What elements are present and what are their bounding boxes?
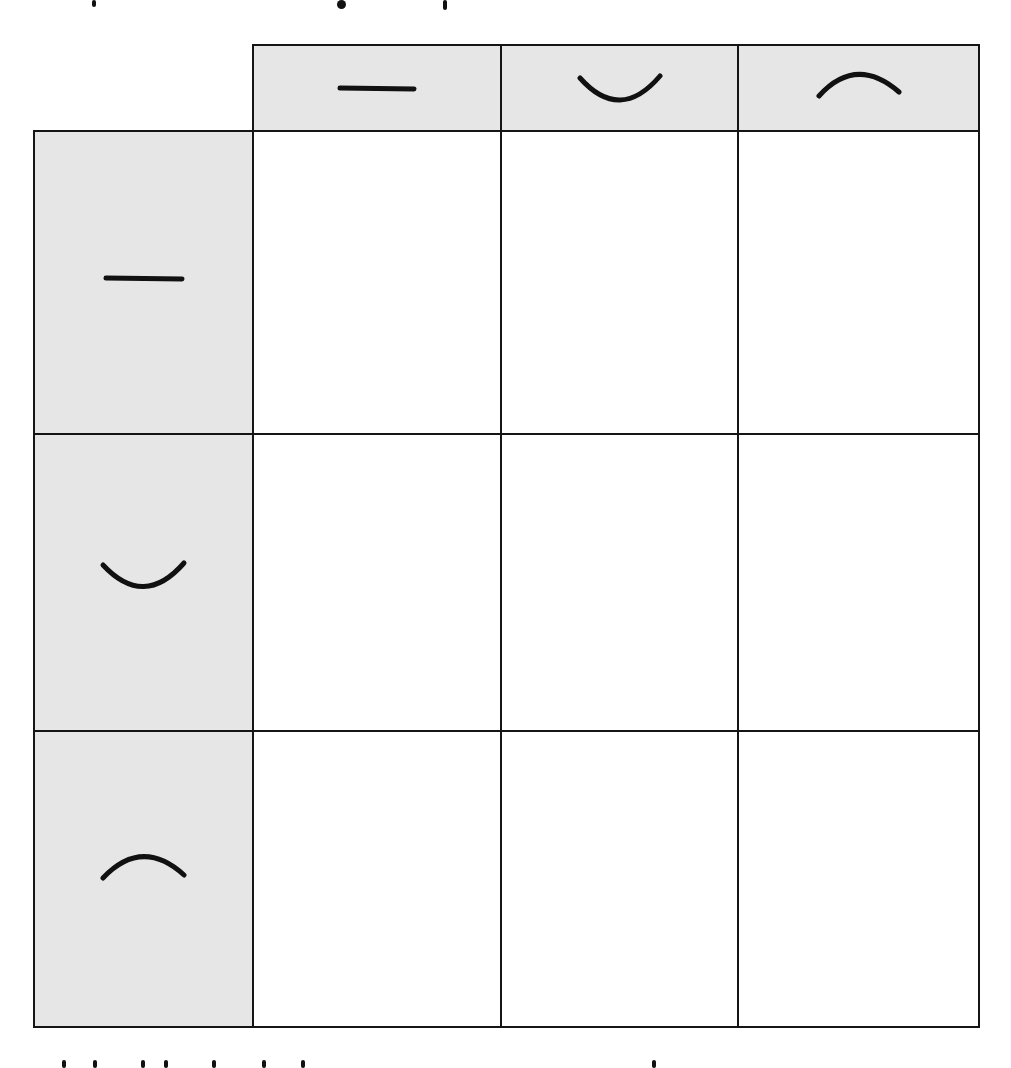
flat-line-icon xyxy=(102,272,186,284)
text-fragment xyxy=(62,1060,66,1068)
text-fragment xyxy=(301,1060,305,1068)
text-fragment xyxy=(93,1060,97,1068)
text-fragment xyxy=(443,0,447,10)
text-fragment xyxy=(652,1060,656,1068)
answer-cell-r1-c1[interactable] xyxy=(252,130,502,435)
column-header-1 xyxy=(252,44,502,132)
concave-up-curve-icon xyxy=(98,559,190,593)
text-fragment xyxy=(164,1060,168,1068)
column-header-2 xyxy=(500,44,739,132)
text-fragment xyxy=(337,0,346,9)
row-header-2 xyxy=(33,433,254,732)
text-fragment xyxy=(141,1060,145,1068)
concave-up-curve-icon xyxy=(575,73,665,107)
concave-down-curve-icon xyxy=(98,849,190,883)
cropped-caption-text xyxy=(0,1056,1011,1068)
answer-cell-r1-c2[interactable] xyxy=(500,130,739,435)
column-header-3 xyxy=(737,44,980,132)
answer-cell-r1-c3[interactable] xyxy=(737,130,980,435)
answer-cell-r2-c2[interactable] xyxy=(500,433,739,732)
answer-cell-r2-c1[interactable] xyxy=(252,433,502,732)
answer-cell-r3-c3[interactable] xyxy=(737,730,980,1028)
cropped-heading-text xyxy=(0,0,1011,12)
concave-down-curve-icon xyxy=(814,67,904,101)
row-header-3 xyxy=(33,730,254,1028)
flat-line-icon xyxy=(336,82,418,94)
text-fragment xyxy=(262,1060,266,1068)
text-fragment xyxy=(212,1060,216,1068)
answer-cell-r3-c2[interactable] xyxy=(500,730,739,1028)
row-header-1 xyxy=(33,130,254,435)
answer-cell-r2-c3[interactable] xyxy=(737,433,980,732)
answer-cell-r3-c1[interactable] xyxy=(252,730,502,1028)
text-fragment xyxy=(92,0,96,7)
